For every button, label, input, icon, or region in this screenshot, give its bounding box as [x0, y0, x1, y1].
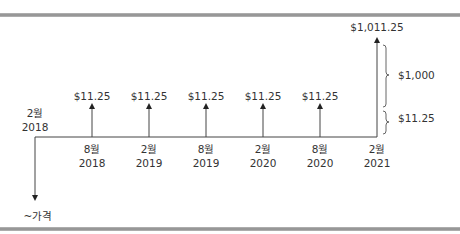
period-year-label: 2020 — [307, 156, 334, 170]
coupon-amount-label: $11.25 — [74, 89, 111, 103]
coupon-amount-label: $11.25 — [245, 89, 282, 103]
start-year-label: 2018 — [22, 120, 49, 134]
start-month-label: 2월 — [27, 106, 44, 120]
period-month-label: 8월 — [84, 142, 101, 156]
period-year-label: 2019 — [193, 156, 220, 170]
final-cash-flow-label: $1,011.25 — [350, 20, 403, 34]
period-month-label: 8월 — [312, 142, 329, 156]
period-month-label: 2월 — [141, 142, 158, 156]
period-month-label: 2월 — [369, 142, 386, 156]
coupon-label: $11.25 — [398, 111, 435, 125]
coupon-brace — [383, 111, 389, 134]
coupon-amount-label: $11.25 — [302, 89, 339, 103]
principal-brace — [383, 45, 389, 107]
coupon-amount-label: $11.25 — [131, 89, 168, 103]
period-year-label: 2021 — [364, 156, 391, 170]
cash-flow-diagram — [0, 0, 460, 234]
initial-outflow-label: ~가격 — [24, 209, 53, 223]
period-year-label: 2019 — [136, 156, 163, 170]
period-month-label: 8월 — [198, 142, 215, 156]
coupon-amount-label: $11.25 — [188, 89, 225, 103]
principal-label: $1,000 — [398, 68, 435, 82]
period-year-label: 2018 — [79, 156, 106, 170]
period-year-label: 2020 — [250, 156, 277, 170]
period-month-label: 2월 — [255, 142, 272, 156]
